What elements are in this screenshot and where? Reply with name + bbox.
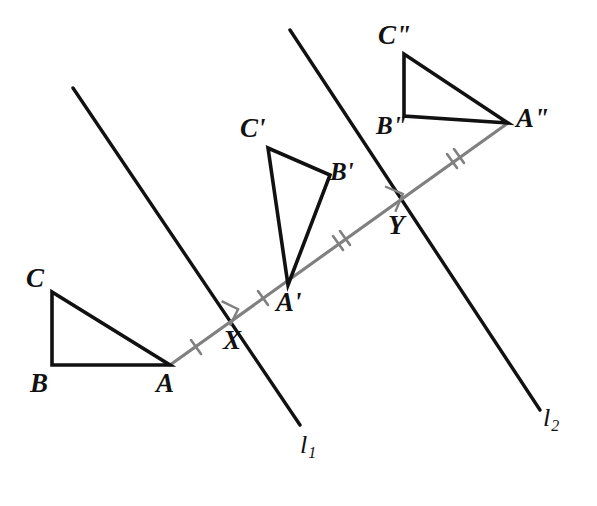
vertex-label-C: C xyxy=(26,265,44,292)
mirror-line-label-l2: l2 xyxy=(543,405,558,431)
triangle-A1B1C1-outline xyxy=(268,148,330,285)
vertex-label-A: A xyxy=(156,370,174,397)
original-triangle xyxy=(52,292,170,365)
first-image-triangle xyxy=(268,148,330,285)
vertex-label-C-prime: C' xyxy=(240,115,266,142)
vertex-label-B-double-prime: B" xyxy=(376,113,407,138)
tick-X-to-A-prime xyxy=(258,291,268,305)
vertex-label-B: B xyxy=(30,370,48,397)
mirror-line-label-l2-subscript: 2 xyxy=(551,417,559,434)
mirror-line-l1 xyxy=(73,88,300,425)
intersection-label-X: X xyxy=(223,327,241,354)
second-image-triangle xyxy=(404,54,508,123)
geometry-canvas xyxy=(0,0,597,506)
vertex-label-A-double-prime: A" xyxy=(516,105,549,132)
vertex-label-A-prime: A' xyxy=(276,289,302,316)
vertex-label-B-prime: B' xyxy=(330,159,354,184)
mirror-line-label-l1-subscript: 1 xyxy=(308,444,316,461)
geometry-figure: A B C A' B' C' A" B" C" X Y l1 l2 xyxy=(0,0,597,506)
intersection-label-Y: Y xyxy=(388,212,405,239)
mirror-line-label-l1-base: l xyxy=(300,430,307,459)
mirror-line-l2 xyxy=(290,30,540,410)
vertex-label-C-double-prime: C" xyxy=(378,22,411,49)
mirror-line-label-l1: l1 xyxy=(300,432,315,458)
mirror-line-label-l2-base: l xyxy=(543,403,550,432)
triangle-A2B2C2-outline xyxy=(404,54,508,123)
triangle-ABC-outline xyxy=(52,292,170,365)
